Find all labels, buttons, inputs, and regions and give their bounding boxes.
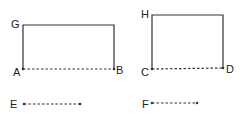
label-d: D (226, 63, 234, 75)
segment-e-group: E (10, 98, 81, 110)
segment-e-end (79, 103, 82, 106)
right-figure: H C D (141, 8, 234, 78)
segment-f-group: F (142, 98, 198, 110)
left-figure-solid-edges (23, 25, 114, 69)
segment-f-end (196, 102, 199, 105)
point-c (151, 68, 154, 71)
segment-e-start (23, 103, 26, 106)
segment-f-start (151, 102, 154, 105)
diagram-canvas: G A B H C D E F (0, 0, 244, 116)
left-figure: G A B (11, 18, 123, 78)
label-a: A (13, 66, 21, 78)
point-d (222, 67, 225, 70)
label-b: B (116, 64, 123, 76)
segment-cd (152, 68, 223, 69)
right-figure-solid-edges (152, 15, 223, 69)
point-b (113, 68, 116, 71)
label-e: E (10, 98, 17, 110)
point-a (22, 68, 25, 71)
label-f: F (142, 98, 149, 110)
label-g: G (11, 18, 20, 30)
label-h: H (141, 8, 149, 20)
label-c: C (141, 66, 149, 78)
